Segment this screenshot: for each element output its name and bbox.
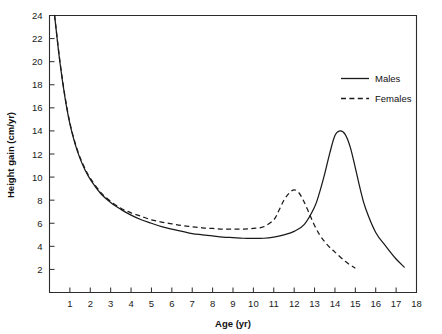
series-line-females bbox=[55, 16, 356, 269]
x-tick-label: 9 bbox=[230, 298, 235, 309]
y-tick-label: 22 bbox=[32, 33, 43, 44]
x-tick-label: 16 bbox=[370, 298, 381, 309]
y-tick-label: 6 bbox=[37, 218, 42, 229]
y-tick-label: 16 bbox=[32, 102, 43, 113]
y-tick-label: 8 bbox=[37, 195, 42, 206]
x-tick-label: 15 bbox=[350, 298, 361, 309]
x-tick-label: 5 bbox=[149, 298, 154, 309]
chart-legend: Males Females bbox=[341, 73, 412, 104]
x-tick-label: 13 bbox=[309, 298, 320, 309]
y-axis-tick-labels: 24681012141618202224 bbox=[32, 10, 43, 275]
y-axis-title: Height gain (cm/yr) bbox=[5, 112, 16, 198]
x-tick-label: 4 bbox=[128, 298, 133, 309]
x-axis-title: Age (yr) bbox=[215, 318, 251, 329]
y-tick-label: 24 bbox=[32, 10, 43, 21]
x-tick-label: 12 bbox=[289, 298, 300, 309]
y-tick-label: 2 bbox=[37, 264, 42, 275]
data-series-group bbox=[55, 16, 405, 269]
x-tick-label: 14 bbox=[330, 298, 341, 309]
y-tick-label: 12 bbox=[32, 149, 43, 160]
y-tick-label: 4 bbox=[37, 241, 42, 252]
y-tick-label: 10 bbox=[32, 172, 43, 183]
x-tick-label: 2 bbox=[88, 298, 93, 309]
x-axis-tick-labels: 123456789101112131415161718 bbox=[67, 298, 422, 309]
y-axis-ticks bbox=[50, 16, 55, 270]
x-tick-label: 11 bbox=[269, 298, 279, 309]
x-tick-label: 3 bbox=[108, 298, 113, 309]
legend-label-males: Males bbox=[375, 73, 401, 84]
plot-frame bbox=[50, 16, 417, 293]
y-tick-label: 20 bbox=[32, 56, 43, 67]
y-tick-label: 14 bbox=[32, 125, 43, 136]
y-tick-label: 18 bbox=[32, 79, 43, 90]
x-tick-label: 18 bbox=[411, 298, 422, 309]
legend-label-females: Females bbox=[375, 93, 412, 104]
x-tick-label: 6 bbox=[169, 298, 174, 309]
x-tick-label: 17 bbox=[391, 298, 402, 309]
x-tick-label: 7 bbox=[190, 298, 195, 309]
height-velocity-chart: 123456789101112131415161718 246810121416… bbox=[0, 0, 442, 334]
x-tick-label: 10 bbox=[248, 298, 259, 309]
x-tick-label: 1 bbox=[67, 298, 72, 309]
x-tick-label: 8 bbox=[210, 298, 215, 309]
x-axis-ticks bbox=[70, 288, 417, 293]
chart-page: 123456789101112131415161718 246810121416… bbox=[0, 0, 442, 334]
